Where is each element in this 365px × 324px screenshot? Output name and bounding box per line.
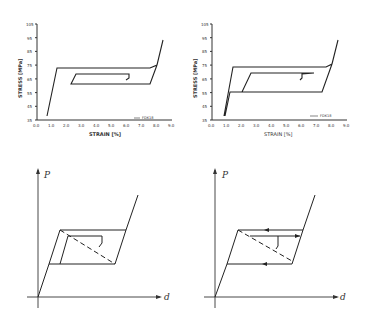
d-axis-arrow-icon bbox=[333, 295, 339, 299]
svg-text:85: 85 bbox=[202, 49, 208, 54]
svg-text:35: 35 bbox=[202, 118, 208, 123]
svg-text:55: 55 bbox=[202, 91, 208, 96]
load-displacement-diagram-left: P d bbox=[0, 150, 182, 324]
dashed-diagonal bbox=[60, 230, 115, 264]
svg-text:75: 75 bbox=[27, 63, 33, 68]
svg-text:8.0: 8.0 bbox=[328, 123, 335, 128]
svg-text:0.0: 0.0 bbox=[208, 123, 215, 128]
svg-text:45: 45 bbox=[202, 104, 208, 109]
stress-strain-plot-right: 35 45 55 65 75 85 95 105 0.0 1.0 2.0 3.0… bbox=[182, 0, 365, 150]
svg-text:105: 105 bbox=[26, 22, 34, 27]
dashed-diagonal bbox=[238, 230, 292, 261]
legend: FDK18 bbox=[142, 116, 153, 120]
svg-text:55: 55 bbox=[27, 91, 33, 96]
p-label: P bbox=[43, 170, 51, 180]
p-axis-arrow-icon bbox=[213, 168, 217, 174]
arrow-icon bbox=[295, 234, 300, 238]
diagram-bottom-right: P d bbox=[182, 150, 365, 324]
arrow-icon bbox=[264, 228, 269, 232]
y-axis-label: STRESS [MPa] bbox=[192, 59, 198, 98]
load-displacement-diagram-right: P d bbox=[182, 150, 365, 324]
p-axis-arrow-icon bbox=[36, 168, 40, 174]
outer-loop bbox=[38, 195, 138, 297]
stress-strain-plot-left: 35 45 55 65 75 85 95 105 0.0 1.0 2.0 3.0… bbox=[0, 0, 182, 150]
diagram-bottom-left: P d bbox=[0, 150, 182, 324]
outer-loop bbox=[215, 195, 315, 297]
chart-top-right: 35 45 55 65 75 85 95 105 0.0 1.0 2.0 3.0… bbox=[182, 0, 365, 150]
svg-text:1.0: 1.0 bbox=[48, 123, 55, 128]
hysteresis-curve bbox=[47, 40, 163, 116]
svg-text:3.0: 3.0 bbox=[78, 123, 85, 128]
svg-text:45: 45 bbox=[27, 104, 33, 109]
hysteresis-curve bbox=[224, 40, 338, 116]
svg-text:65: 65 bbox=[27, 77, 33, 82]
x-ticks: 0.0 1.0 2.0 3.0 4.0 5.0 6.0 7.0 8.0 9.0 bbox=[208, 123, 350, 128]
svg-text:5.0: 5.0 bbox=[108, 123, 115, 128]
x-axis-label: STRAIN [%] bbox=[264, 131, 292, 137]
svg-text:4.0: 4.0 bbox=[93, 123, 100, 128]
d-label: d bbox=[164, 292, 170, 302]
svg-text:35: 35 bbox=[27, 118, 33, 123]
y-ticks: 35 45 55 65 75 85 95 105 bbox=[26, 22, 37, 123]
d-axis-arrow-icon bbox=[156, 295, 162, 299]
svg-text:9.0: 9.0 bbox=[168, 123, 175, 128]
x-axis-label: STRAIN [%] bbox=[89, 131, 121, 137]
y-axis-label: STRESS [MPa] bbox=[17, 59, 23, 98]
svg-text:3.0: 3.0 bbox=[253, 123, 260, 128]
svg-text:75: 75 bbox=[202, 63, 208, 68]
x-ticks: 0.0 1.0 2.0 3.0 4.0 5.0 6.0 7.0 8.0 9.0 bbox=[33, 123, 175, 128]
svg-text:6.0: 6.0 bbox=[298, 123, 305, 128]
legend: FDK18 bbox=[320, 114, 331, 118]
svg-text:8.0: 8.0 bbox=[153, 123, 160, 128]
svg-text:65: 65 bbox=[202, 77, 208, 82]
p-label: P bbox=[221, 170, 229, 180]
svg-text:2.0: 2.0 bbox=[63, 123, 70, 128]
d-label: d bbox=[340, 292, 346, 302]
svg-text:9.0: 9.0 bbox=[343, 123, 350, 128]
svg-text:7.0: 7.0 bbox=[138, 123, 145, 128]
svg-text:85: 85 bbox=[27, 49, 33, 54]
svg-text:95: 95 bbox=[27, 36, 33, 41]
svg-text:0.0: 0.0 bbox=[33, 123, 40, 128]
svg-text:95: 95 bbox=[202, 36, 208, 41]
y-ticks: 35 45 55 65 75 85 95 105 bbox=[201, 22, 212, 123]
svg-text:4.0: 4.0 bbox=[268, 123, 275, 128]
svg-text:2.0: 2.0 bbox=[238, 123, 245, 128]
svg-text:7.0: 7.0 bbox=[313, 123, 320, 128]
svg-text:6.0: 6.0 bbox=[123, 123, 130, 128]
svg-text:105: 105 bbox=[201, 22, 209, 27]
chart-top-left: 35 45 55 65 75 85 95 105 0.0 1.0 2.0 3.0… bbox=[0, 0, 182, 150]
inner-loop bbox=[60, 236, 102, 264]
arrow-icon bbox=[262, 262, 267, 266]
svg-text:1.0: 1.0 bbox=[223, 123, 230, 128]
svg-text:5.0: 5.0 bbox=[283, 123, 290, 128]
